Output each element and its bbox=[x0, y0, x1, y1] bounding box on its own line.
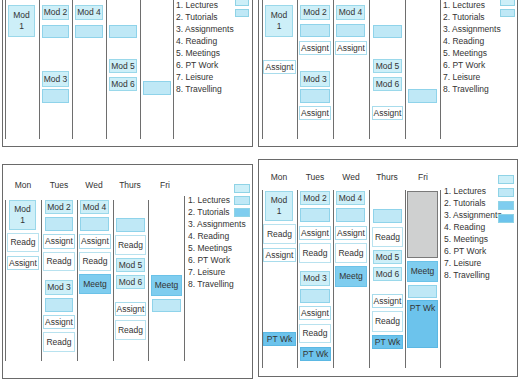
lecture-block[interactable]: Mod 1 bbox=[265, 5, 293, 37]
tutorial-block[interactable] bbox=[300, 89, 330, 103]
assignment-block[interactable]: Assignt bbox=[115, 302, 146, 316]
reading-block[interactable]: Readg bbox=[7, 233, 39, 252]
column-divider bbox=[140, 0, 141, 139]
tutorial-block[interactable] bbox=[300, 24, 330, 37]
lecture-block[interactable]: Mod 4 bbox=[336, 191, 365, 205]
assignment-block[interactable]: Assignt bbox=[79, 234, 111, 249]
assignment-block[interactable]: Assignt bbox=[299, 306, 331, 320]
lecture-block[interactable]: Mod 3 bbox=[42, 71, 69, 87]
assignment-block[interactable]: Assignt bbox=[299, 226, 331, 240]
assignment-block[interactable]: Assignt bbox=[43, 315, 75, 329]
meeting-block[interactable]: Meetg bbox=[79, 274, 111, 294]
column-divider bbox=[5, 200, 6, 361]
lecture-block[interactable]: Mod 4 bbox=[80, 200, 109, 214]
lecture-block[interactable]: Mod 3 bbox=[300, 71, 330, 87]
lecture-block[interactable]: Mod 4 bbox=[336, 5, 365, 20]
lecture-block[interactable]: Mod 5 bbox=[109, 59, 137, 73]
lecture-block[interactable]: Mod 1 bbox=[9, 200, 36, 230]
reading-block[interactable]: Readg bbox=[372, 311, 403, 332]
meeting-block[interactable]: Meetg bbox=[151, 275, 182, 296]
assignment-block[interactable]: Assignt bbox=[299, 106, 331, 120]
pt-work-block[interactable]: PT Wk bbox=[300, 347, 331, 361]
tutorial-block[interactable] bbox=[109, 25, 137, 38]
tutorial-block[interactable] bbox=[300, 208, 330, 222]
tutorial-block[interactable] bbox=[42, 25, 69, 38]
assignment-block[interactable]: Assignt bbox=[43, 234, 75, 249]
assignment-block[interactable]: Assignt bbox=[372, 106, 403, 120]
lecture-block[interactable]: Mod 6 bbox=[373, 267, 402, 281]
column-divider bbox=[440, 190, 441, 368]
reading-block[interactable]: Readg bbox=[115, 235, 146, 255]
tutorial-block[interactable] bbox=[116, 218, 145, 232]
legend-item-pt-work: 6. PT Work bbox=[444, 245, 502, 257]
tutorial-block[interactable] bbox=[80, 217, 109, 231]
lecture-block[interactable]: Mod 6 bbox=[116, 275, 145, 289]
reading-block[interactable]: Readg bbox=[335, 243, 367, 263]
tutorial-block[interactable] bbox=[336, 24, 365, 37]
legend: 1. Lectures 2. Tutorials 3. Assignments … bbox=[443, 0, 501, 95]
assignment-block[interactable]: Assignt bbox=[7, 256, 39, 270]
day-header-wed: Wed bbox=[77, 180, 111, 190]
lecture-block[interactable]: Mod 3 bbox=[300, 271, 330, 286]
tutorial-block[interactable] bbox=[152, 299, 181, 312]
lecture-block[interactable]: Mod 2 bbox=[42, 5, 69, 20]
legend-item-leisure: 7. Leisure bbox=[443, 71, 501, 83]
assignment-block[interactable]: Assignt bbox=[372, 294, 403, 308]
reading-block[interactable]: Readg bbox=[299, 324, 331, 343]
tutorial-block[interactable] bbox=[143, 81, 171, 95]
tutorial-block[interactable] bbox=[408, 285, 437, 298]
lecture-block[interactable]: Mod 2 bbox=[300, 5, 330, 20]
reading-block[interactable]: Readg bbox=[43, 252, 75, 271]
lecture-block[interactable]: Mod 5 bbox=[373, 250, 402, 264]
legend-item-pt-work: 6. PT Work bbox=[176, 59, 234, 71]
column-divider bbox=[440, 0, 441, 139]
lecture-block[interactable]: Mod 3 bbox=[45, 280, 73, 295]
assignment-block[interactable]: Assignt bbox=[299, 41, 331, 55]
reading-block[interactable]: Readg bbox=[43, 332, 75, 352]
tutorial-block[interactable] bbox=[45, 217, 73, 231]
legend-item-lectures: 1. Lectures bbox=[443, 0, 501, 11]
legend-item-meetings: 5. Meetings bbox=[443, 47, 501, 59]
legend-item-tutorials: 2. Tutorials bbox=[444, 197, 502, 209]
lecture-block[interactable]: Mod 6 bbox=[373, 77, 402, 91]
tutorial-block[interactable] bbox=[373, 25, 402, 38]
tutorial-block[interactable] bbox=[75, 25, 103, 38]
reading-block[interactable]: Readg bbox=[79, 252, 111, 271]
tutorial-block[interactable] bbox=[373, 209, 402, 223]
meeting-block[interactable]: Meetg bbox=[335, 266, 367, 287]
day-header-tues: Tues bbox=[42, 180, 76, 190]
tutorial-block[interactable] bbox=[336, 208, 365, 222]
assignment-block[interactable]: Assignt bbox=[263, 248, 296, 262]
reading-block[interactable]: Readg bbox=[299, 243, 331, 263]
pt-work-block[interactable]: PT Wk bbox=[407, 300, 438, 348]
lecture-block[interactable]: Mod 4 bbox=[75, 5, 103, 20]
tutorial-block[interactable] bbox=[42, 89, 69, 103]
lecture-block[interactable]: Mod 5 bbox=[116, 258, 145, 272]
day-header-thurs: Thurs bbox=[113, 180, 147, 190]
column-divider bbox=[173, 0, 174, 139]
assignment-block[interactable]: Assignt bbox=[335, 226, 367, 240]
lecture-block[interactable]: Mod 1 bbox=[265, 191, 293, 221]
assignment-block[interactable]: Assignt bbox=[263, 60, 296, 74]
tutorial-block[interactable] bbox=[45, 298, 73, 312]
column-divider bbox=[39, 0, 40, 139]
tutorial-block[interactable] bbox=[408, 89, 437, 103]
assignment-block[interactable]: Assignt bbox=[335, 41, 367, 55]
leisure-block[interactable] bbox=[407, 191, 438, 258]
lecture-block[interactable]: Mod 6 bbox=[109, 77, 137, 91]
tutorial-block[interactable] bbox=[300, 289, 330, 303]
legend-item-lectures: 1. Lectures bbox=[444, 185, 502, 197]
reading-block[interactable]: Readg bbox=[372, 227, 403, 247]
reading-block[interactable]: Readg bbox=[115, 320, 146, 340]
pt-work-block[interactable]: PT Wk bbox=[372, 335, 403, 349]
reading-block[interactable]: Readg bbox=[263, 224, 296, 244]
lecture-block[interactable]: Mod 1 bbox=[8, 5, 35, 37]
lecture-block[interactable]: Mod 2 bbox=[300, 191, 330, 205]
pt-work-block[interactable]: PT Wk bbox=[263, 332, 296, 346]
lecture-block[interactable]: Mod 5 bbox=[373, 59, 402, 73]
column-divider bbox=[77, 200, 78, 361]
legend-swatch-tutorials bbox=[498, 188, 514, 197]
meeting-block[interactable]: Meetg bbox=[407, 261, 438, 282]
column-divider bbox=[106, 0, 107, 139]
lecture-block[interactable]: Mod 2 bbox=[45, 200, 73, 214]
